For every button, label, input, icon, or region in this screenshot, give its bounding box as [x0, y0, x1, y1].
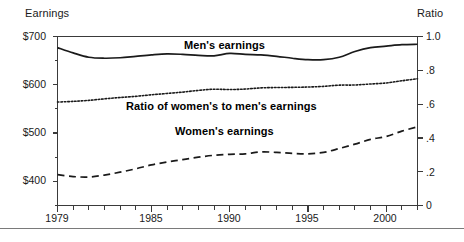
left-tick-400: $400 [6, 174, 46, 186]
left-tick-600: $600 [6, 78, 46, 90]
left-tick-700: $700 [6, 30, 46, 42]
chart-figure: Earnings Ratio $700 $600 $500 $400 1.0 .… [0, 0, 464, 242]
right-tick-0-8: .8 [426, 64, 464, 76]
series-path-dotted [58, 79, 418, 102]
x-tick-2000: 2000 [360, 212, 410, 224]
right-tick-0-6: .6 [426, 98, 464, 110]
plot-canvas [0, 0, 464, 242]
series-label-women: Women's earnings [175, 125, 274, 137]
series-label-ratio: Ratio of women's to men's earnings [126, 100, 317, 112]
right-tick-0-4: .4 [426, 132, 464, 144]
right-axis-title: Ratio [417, 7, 443, 19]
x-tick-1985: 1985 [126, 212, 176, 224]
x-tick-1995: 1995 [282, 212, 332, 224]
right-tick-1-0: 1.0 [426, 30, 464, 42]
x-tick-1979: 1979 [32, 212, 82, 224]
left-axis-title: Earnings [25, 7, 69, 19]
right-tick-0: 0 [426, 199, 464, 211]
left-tick-500: $500 [6, 126, 46, 138]
series-label-men: Men's earnings [184, 39, 265, 51]
right-tick-0-2: .2 [426, 166, 464, 178]
x-tick-1990: 1990 [204, 212, 254, 224]
axes-group [53, 37, 423, 212]
footer-rule [0, 228, 464, 229]
